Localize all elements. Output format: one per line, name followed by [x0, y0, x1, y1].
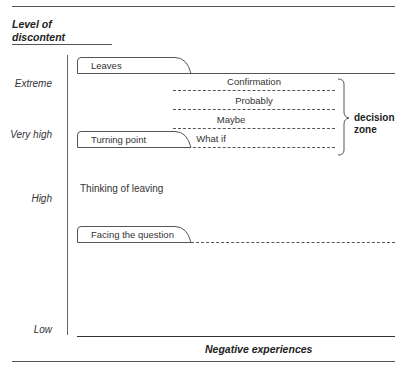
decision-zone-line-1: decision [354, 112, 395, 124]
step-confirmation: Confirmation [173, 76, 335, 87]
top-rule [12, 6, 395, 7]
stage-turning-point-tab: Turning point [77, 131, 195, 147]
step-maybe: Maybe [150, 114, 312, 125]
step-probably: Probably [173, 95, 335, 106]
step-divider [173, 128, 335, 129]
y-level-very-high: Very high [0, 129, 52, 140]
y-level-low: Low [0, 324, 52, 335]
decision-zone-label: decision zone [354, 112, 395, 136]
facing-question-dashed-line [191, 242, 395, 243]
leaves-solid-line [191, 73, 395, 74]
step-divider [173, 147, 335, 148]
stage-leaves-tab: Leaves [77, 57, 195, 73]
bottom-rule [12, 361, 395, 362]
y-axis-title: Level of discontent [12, 18, 65, 44]
decision-zone-line-2: zone [354, 124, 395, 136]
y-level-extreme: Extreme [0, 78, 52, 89]
stage-label: Leaves [91, 60, 122, 71]
y-axis-title-line-1: Level of [12, 18, 65, 31]
title-underline [12, 44, 112, 45]
y-level-high: High [0, 193, 52, 204]
x-axis-line [77, 336, 395, 337]
x-axis-title: Negative experiences [205, 343, 312, 356]
stage-label: Facing the question [91, 229, 174, 240]
y-axis-title-line-2: discontent [12, 31, 65, 44]
y-axis-line [67, 55, 68, 335]
stage-facing-question-tab: Facing the question [77, 226, 195, 242]
stage-label: Turning point [91, 134, 146, 145]
thinking-of-leaving-note: Thinking of leaving [80, 183, 163, 194]
step-divider [173, 109, 335, 110]
step-divider [173, 90, 335, 91]
right-brace-icon [336, 78, 350, 156]
